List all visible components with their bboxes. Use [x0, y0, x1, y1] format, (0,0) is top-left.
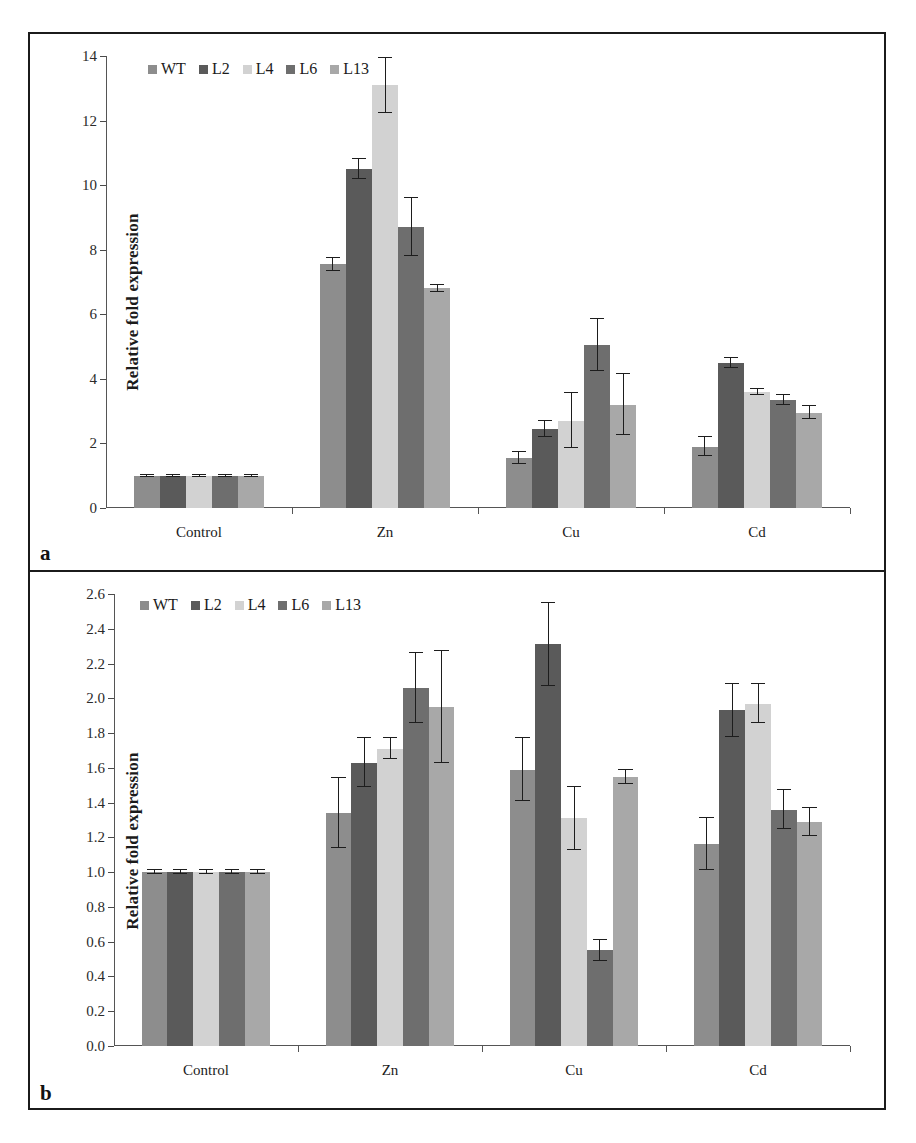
error-bar-cap-top: [434, 650, 448, 651]
error-bar-cap-top: [564, 392, 579, 393]
bar[interactable]: [142, 872, 168, 1046]
bar[interactable]: [403, 688, 429, 1046]
bar[interactable]: [771, 810, 797, 1046]
bar[interactable]: [797, 822, 823, 1046]
error-bar-cap-bottom: [616, 434, 631, 435]
error-bar-cap-top: [567, 786, 581, 787]
error-bar-cap-bottom: [331, 847, 345, 848]
bar[interactable]: [694, 844, 720, 1046]
bar[interactable]: [320, 264, 346, 508]
error-bar-cap-bottom: [225, 873, 239, 874]
bar[interactable]: [398, 227, 424, 508]
error-bar-cap-bottom: [564, 447, 579, 448]
x-axis-tick: [666, 1046, 667, 1052]
error-bar-cap-bottom: [173, 873, 187, 874]
x-category-label: Zn: [292, 524, 478, 541]
bar[interactable]: [719, 710, 745, 1046]
bar[interactable]: [219, 872, 245, 1046]
bar[interactable]: [326, 813, 352, 1046]
plot-area-a: 02468101214 ControlZnCuCd WTL2L4L6L13: [106, 56, 850, 508]
bar[interactable]: [745, 704, 771, 1046]
error-bar: [338, 778, 339, 848]
legend-item-l4[interactable]: L4: [243, 60, 274, 78]
legend-b: WTL2L4L6L13: [140, 596, 361, 614]
error-bar-cap-top: [750, 388, 765, 389]
legend-item-l2[interactable]: L2: [191, 596, 222, 614]
error-bar-cap-top: [404, 197, 419, 198]
error-bar: [385, 58, 386, 113]
bar[interactable]: [561, 818, 587, 1046]
x-axis-tick: [478, 508, 479, 514]
legend-swatch-icon: [235, 601, 244, 610]
error-bar-cap-top: [777, 789, 791, 790]
bar[interactable]: [186, 476, 212, 508]
legend-item-l13[interactable]: L13: [330, 60, 369, 78]
bar[interactable]: [372, 85, 398, 508]
error-bar-cap-bottom: [326, 270, 341, 271]
error-bar: [441, 651, 442, 762]
bar[interactable]: [238, 476, 264, 508]
x-axis-tick: [850, 1046, 851, 1052]
bar[interactable]: [160, 476, 186, 508]
panel-a: a Relative fold expression 02468101214 C…: [30, 34, 884, 572]
bar-group-control: Control: [106, 56, 292, 508]
error-bar-cap-bottom: [698, 455, 713, 456]
bar[interactable]: [510, 770, 536, 1046]
error-bar: [415, 653, 416, 723]
x-axis-tick: [664, 508, 665, 514]
legend-item-l6[interactable]: L6: [278, 596, 309, 614]
error-bar-cap-bottom: [434, 762, 448, 763]
legend-item-l2[interactable]: L2: [199, 60, 230, 78]
legend-item-l13[interactable]: L13: [322, 596, 361, 614]
bar-group-control: Control: [114, 594, 298, 1046]
legend-item-l6[interactable]: L6: [286, 60, 317, 78]
legend-item-l4[interactable]: L4: [235, 596, 266, 614]
error-bar: [358, 159, 359, 178]
bar[interactable]: [346, 169, 372, 508]
bar[interactable]: [535, 644, 561, 1046]
error-bar-cap-bottom: [724, 367, 739, 368]
error-bar-cap-top: [383, 737, 397, 738]
bar[interactable]: [718, 363, 744, 508]
bar[interactable]: [245, 872, 271, 1046]
legend-swatch-icon: [191, 601, 200, 610]
bar[interactable]: [377, 749, 403, 1046]
error-bar-cap-bottom: [699, 869, 713, 870]
error-bar-cap-bottom: [250, 873, 264, 874]
bar[interactable]: [193, 872, 219, 1046]
error-bar-cap-bottom: [404, 255, 419, 256]
bar[interactable]: [770, 400, 796, 508]
legend-item-wt[interactable]: WT: [148, 60, 186, 78]
y-tick-mark: [100, 508, 106, 509]
error-bar: [574, 787, 575, 850]
bar[interactable]: [532, 429, 558, 508]
x-category-label: Cu: [482, 1062, 666, 1079]
error-bar-cap-bottom: [593, 960, 607, 961]
bar[interactable]: [613, 777, 639, 1046]
bar[interactable]: [167, 872, 193, 1046]
bar[interactable]: [424, 288, 450, 508]
bar[interactable]: [212, 476, 238, 508]
error-bar-cap-top: [331, 777, 345, 778]
x-category-label: Control: [114, 1062, 298, 1079]
bar[interactable]: [351, 763, 377, 1046]
bar[interactable]: [506, 458, 532, 508]
bar[interactable]: [587, 950, 613, 1046]
error-bar-cap-bottom: [140, 476, 155, 477]
bar-group-cu: Cu: [478, 56, 664, 508]
legend-label: L6: [291, 596, 309, 614]
legend-label: L13: [335, 596, 361, 614]
error-bar-cap-bottom: [750, 394, 765, 395]
error-bar-cap-top: [357, 737, 371, 738]
x-category-label: Cu: [478, 524, 664, 541]
bar-group-zn: Zn: [292, 56, 478, 508]
error-bar-cap-top: [541, 602, 555, 603]
bar[interactable]: [796, 413, 822, 508]
error-bar-cap-top: [593, 939, 607, 940]
bar[interactable]: [134, 476, 160, 508]
legend-item-wt[interactable]: WT: [140, 596, 178, 614]
legend-label: L4: [248, 596, 266, 614]
bar-group-cu: Cu: [482, 594, 666, 1046]
bar-group-cd: Cd: [664, 56, 850, 508]
bar[interactable]: [744, 392, 770, 508]
